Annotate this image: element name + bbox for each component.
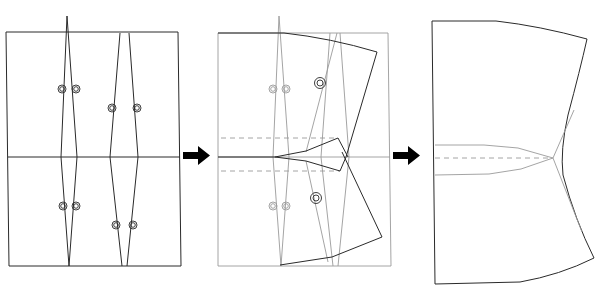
rotated-guide-1 bbox=[306, 33, 337, 152]
arrow-right-icon bbox=[393, 146, 420, 165]
side-seam-guide bbox=[553, 110, 582, 232]
new-dart-lower bbox=[275, 157, 346, 171]
dart-manipulation-diagram bbox=[0, 0, 606, 297]
ghost-side-dart-left bbox=[321, 33, 333, 266]
dart-leg-upper bbox=[435, 145, 553, 158]
dart-leg-lower bbox=[435, 158, 553, 175]
pattern-frame bbox=[6, 32, 181, 266]
side-dart-left bbox=[110, 33, 122, 266]
final-pattern-outline bbox=[432, 21, 594, 284]
marker-rings bbox=[311, 78, 326, 204]
ghost-front-dart bbox=[273, 16, 289, 266]
panel-pivot-step bbox=[218, 16, 391, 266]
front-dart bbox=[61, 16, 77, 266]
rotated-guide-2 bbox=[306, 161, 328, 262]
original-frame-ghost bbox=[218, 33, 391, 266]
arrow-right-icon bbox=[183, 146, 210, 165]
panel-original-pattern bbox=[6, 16, 181, 266]
new-dart-upper bbox=[275, 138, 348, 157]
side-dart-right bbox=[127, 33, 138, 266]
panel-final-pattern bbox=[432, 21, 594, 284]
